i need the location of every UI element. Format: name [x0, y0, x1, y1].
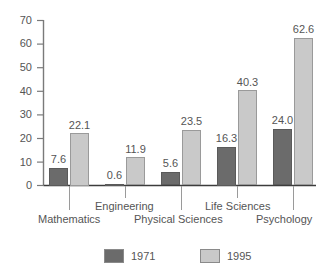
ytick-label-30: 30	[10, 109, 32, 120]
bar-value-1995-mathematics: 22.1	[64, 120, 95, 131]
ytick-label-40: 40	[10, 86, 32, 97]
plot-area: 70 60 50 40 30 20 10 0 7.6 22.1 0.6 11.9…	[0, 0, 328, 276]
bar-1971-engineering	[105, 184, 124, 186]
bar-value-1995-engineering: 11.9	[120, 144, 151, 155]
category-label-mathematics: Mathematics	[38, 213, 100, 225]
legend-swatch-1995	[200, 249, 220, 263]
legend-swatch-1971	[104, 249, 124, 263]
legend-label-1995: 1995	[227, 250, 251, 262]
category-label-engineering: Engineering	[95, 200, 154, 212]
category-label-physical-sciences: Physical Sciences	[134, 213, 223, 225]
bar-1971-life-sciences	[217, 147, 236, 186]
legend-label-1971: 1971	[131, 250, 155, 262]
bar-1971-psychology	[273, 129, 292, 186]
bar-1995-engineering	[126, 157, 145, 185]
leader-line-mathematics	[69, 186, 70, 210]
bar-value-1995-physical-sciences: 23.5	[176, 116, 207, 127]
bar-1971-mathematics	[49, 168, 68, 186]
bar-1995-mathematics	[70, 133, 89, 185]
ytick-label-0: 0	[10, 180, 32, 191]
bar-value-1995-life-sciences: 40.3	[231, 77, 264, 88]
leader-line-physical-sciences	[181, 186, 182, 210]
ytick-label-10: 10	[10, 157, 32, 168]
leader-line-psychology	[293, 186, 294, 210]
leader-line-life-sciences	[237, 186, 238, 198]
leader-line-engineering	[125, 186, 126, 198]
bar-1995-physical-sciences	[182, 130, 201, 185]
ytick-label-50: 50	[10, 62, 32, 73]
ytick-label-60: 60	[10, 38, 32, 49]
ytick-label-70: 70	[10, 15, 32, 26]
ytick-label-20: 20	[10, 133, 32, 144]
bar-chart: 70 60 50 40 30 20 10 0 7.6 22.1 0.6 11.9…	[0, 0, 328, 276]
bar-1995-life-sciences	[238, 90, 257, 185]
bar-1995-psychology	[294, 38, 313, 186]
bar-value-1995-psychology: 62.6	[287, 24, 320, 35]
category-label-life-sciences: Life Sciences	[205, 200, 270, 212]
bar-1971-physical-sciences	[161, 172, 180, 185]
category-label-psychology: Psychology	[256, 213, 312, 225]
